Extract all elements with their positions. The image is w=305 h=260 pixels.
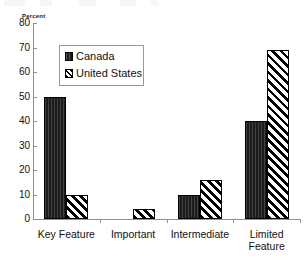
bar-united-states xyxy=(267,50,289,219)
y-axis-tick-label: 80 xyxy=(4,18,30,28)
y-axis-tick-label: 10 xyxy=(4,190,30,200)
y-axis-tick-label: 20 xyxy=(4,165,30,175)
y-axis-tick xyxy=(33,219,37,220)
bar-chart-figure: Percent 80706050403020100 Key FeatureImp… xyxy=(0,0,305,260)
legend-entry-united-states: United States xyxy=(65,68,142,79)
legend-swatch-canada xyxy=(65,52,73,61)
x-axis-category-label: Important xyxy=(100,228,167,240)
chart-legend: Canada United States xyxy=(59,45,144,86)
legend-label-united-states: United States xyxy=(76,68,142,79)
bar-canada xyxy=(178,195,200,220)
x-axis-category-label: Key Feature xyxy=(33,228,100,240)
x-axis-category-label: Intermediate xyxy=(167,228,234,240)
bar-united-states xyxy=(133,209,155,219)
y-axis-tick-label: 40 xyxy=(4,116,30,126)
y-axis-tick-label: 70 xyxy=(4,43,30,53)
y-axis-tick-label: 50 xyxy=(4,92,30,102)
legend-label-canada: Canada xyxy=(76,51,115,62)
bar-united-states xyxy=(200,180,222,219)
x-axis-category-label: Limited Feature xyxy=(233,228,300,252)
x-axis-separator-tick xyxy=(100,219,101,223)
bar-canada xyxy=(245,121,267,219)
x-axis-separator-tick xyxy=(300,219,301,223)
bar-canada xyxy=(44,97,66,220)
legend-swatch-united-states xyxy=(65,69,73,78)
y-axis-tick-label: 60 xyxy=(4,67,30,77)
bar-united-states xyxy=(66,195,88,220)
legend-entry-canada: Canada xyxy=(65,51,115,62)
y-axis-tick-label: 0 xyxy=(4,214,30,224)
cropped-title-artifact xyxy=(0,0,305,6)
x-axis-separator-tick xyxy=(233,219,234,223)
y-axis-tick-label: 30 xyxy=(4,141,30,151)
x-axis-separator-tick xyxy=(167,219,168,223)
